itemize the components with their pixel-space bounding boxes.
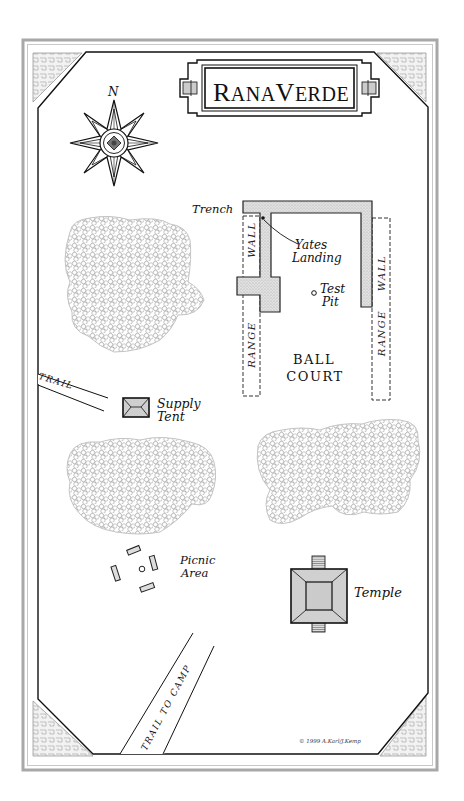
supply-tent-icon[interactable] bbox=[123, 398, 149, 417]
ball-court-label-line1: BALL bbox=[289, 353, 339, 367]
test-pit-marker[interactable] bbox=[312, 291, 317, 296]
corner-ornament-top-left bbox=[33, 53, 82, 102]
compass-rose-icon bbox=[70, 100, 158, 186]
title-rest-erde: ERDE bbox=[295, 83, 349, 105]
temple-icon[interactable] bbox=[291, 556, 347, 632]
map-title: RANAVERDE bbox=[205, 78, 357, 108]
title-rest-ana: ANA bbox=[231, 83, 276, 105]
range-wall-left-label-range: RANGE bbox=[246, 318, 257, 372]
forest-middle-left bbox=[67, 437, 216, 534]
ball-court-label-line2: COURT bbox=[284, 370, 346, 384]
copyright-notice: © 1999 A.Karl/J.Kemp bbox=[299, 738, 361, 744]
compass-north-label: N bbox=[108, 86, 119, 99]
picnic-area-label-line2: Area bbox=[181, 567, 208, 579]
yates-landing-label-line1: Yates bbox=[295, 239, 327, 252]
trench-label: Trench bbox=[192, 203, 233, 215]
forest-top-left bbox=[65, 216, 204, 352]
yates-landing-label-line2: Landing bbox=[292, 252, 342, 265]
picnic-area-icon[interactable] bbox=[111, 546, 158, 593]
range-wall-left-label-wall: WALL bbox=[246, 219, 257, 261]
test-pit-label-line2: Pit bbox=[322, 296, 339, 309]
title-initial-v: V bbox=[276, 78, 295, 107]
supply-tent-label-line2: Tent bbox=[157, 410, 185, 423]
corner-ornament-bottom-left bbox=[33, 701, 93, 756]
yates-landing-marker[interactable] bbox=[261, 216, 265, 220]
picnic-area-label-line1: Picnic bbox=[180, 554, 215, 566]
map-canvas bbox=[0, 0, 464, 801]
corner-ornament-top-right bbox=[377, 53, 426, 102]
title-initial-r: R bbox=[213, 78, 231, 107]
corner-ornament-bottom-right bbox=[380, 696, 426, 756]
test-pit-label-line1: Test bbox=[320, 283, 345, 296]
outer-frame bbox=[23, 40, 437, 770]
forest-middle-right bbox=[257, 420, 420, 524]
temple-label: Temple bbox=[354, 586, 402, 600]
range-wall-right-label: RANGE WALL bbox=[376, 250, 387, 362]
